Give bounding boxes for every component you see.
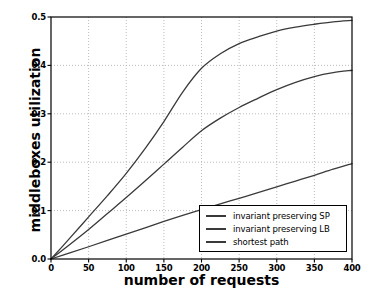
legend-line-swatch	[206, 241, 226, 243]
x-axis-label: number of requests	[51, 272, 352, 288]
plot-canvas	[0, 0, 374, 298]
legend-item: invariant preserving SP	[204, 209, 342, 222]
chart-legend: invariant preserving SP invariant preser…	[199, 205, 347, 252]
legend-item-label: invariant preserving LB	[233, 224, 330, 234]
legend-line-swatch	[206, 228, 226, 230]
legend-item-label: invariant preserving SP	[233, 211, 330, 221]
y-axis-label-wrapper: middleboxes utilization	[24, 19, 46, 261]
y-axis-label: middleboxes utilization	[24, 19, 46, 261]
legend-item: shortest path	[204, 235, 342, 248]
legend-line-swatch	[206, 215, 226, 217]
legend-item-label: shortest path	[233, 237, 289, 247]
legend-item: invariant preserving LB	[204, 222, 342, 235]
chart-figure: 0501001502002503003504000.00.10.20.30.40…	[0, 0, 374, 298]
